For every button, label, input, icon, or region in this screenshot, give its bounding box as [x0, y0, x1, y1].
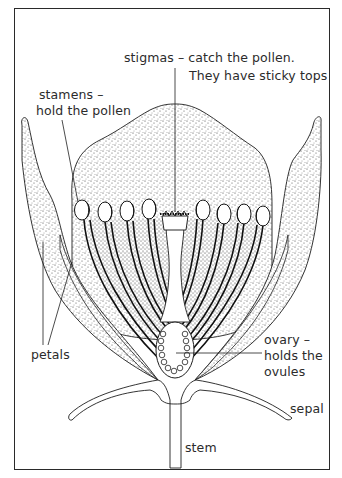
stamens-label-line1: stamens – — [36, 87, 131, 103]
ovary-label-line1: ovary – — [264, 332, 323, 348]
sepal-label: sepal — [290, 401, 324, 417]
stigmas-label: stigmas – catch the pollen. They have st… — [124, 50, 327, 84]
stamens-label-line2: hold the pollen — [36, 103, 131, 119]
stigmas-label-line1: stigmas – catch the pollen. — [124, 50, 327, 66]
stem-label: stem — [185, 440, 217, 456]
stigmas-label-line2: They have sticky tops — [124, 68, 327, 84]
sepals-and-stem — [69, 380, 292, 468]
stamens-label: stamens – hold the pollen — [36, 87, 131, 119]
ovary-label: ovary – holds the ovules — [264, 332, 323, 380]
petals-label: petals — [31, 347, 70, 363]
ovary-label-line2: holds the — [264, 348, 323, 364]
ovary-label-line3: ovules — [264, 364, 323, 380]
